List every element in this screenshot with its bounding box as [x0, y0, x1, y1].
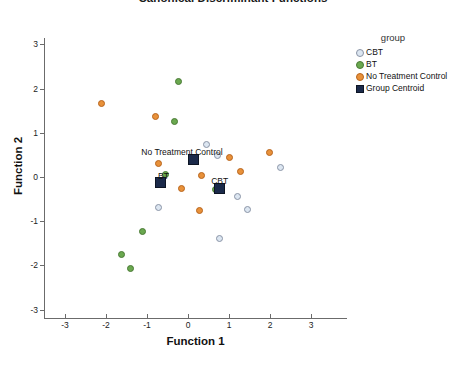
legend-item[interactable]: BT — [356, 59, 466, 70]
legend-entries: CBTBTNo Treatment ControlGroup Centroid — [356, 47, 466, 94]
x-axis-tick-label: 1 — [219, 320, 239, 330]
data-point — [127, 265, 134, 272]
data-point — [198, 172, 205, 179]
data-point — [139, 228, 146, 235]
legend-item[interactable]: No Treatment Control — [356, 71, 466, 82]
data-point — [175, 78, 182, 85]
data-point — [155, 160, 162, 167]
data-point — [178, 185, 185, 192]
centroid-label: BT — [158, 171, 169, 181]
legend-item[interactable]: Group Centroid — [356, 83, 466, 94]
data-point — [118, 251, 125, 258]
x-axis-title: Function 1 — [44, 335, 347, 347]
y-axis-tick-label: -3 — [18, 305, 38, 315]
legend-swatch-group-centroid-icon — [356, 85, 364, 93]
legend-item-label: CBT — [366, 48, 383, 57]
data-point — [277, 164, 284, 171]
discriminant-scatter-plot: Canonical Discriminant Functions -3-2-10… — [0, 0, 466, 367]
legend-item-label: No Treatment Control — [366, 72, 447, 81]
x-axis-tick-label: 3 — [301, 320, 321, 330]
x-axis-tick-label: 0 — [178, 320, 198, 330]
legend: group CBTBTNo Treatment ControlGroup Cen… — [356, 32, 466, 95]
y-axis-tick-label: -2 — [18, 260, 38, 270]
x-axis-tick-label: -1 — [137, 320, 157, 330]
y-axis-tick-label: 3 — [18, 39, 38, 49]
x-axis-tick-label: -2 — [96, 320, 116, 330]
chart-title: Canonical Discriminant Functions — [0, 0, 466, 4]
data-point — [234, 193, 241, 200]
data-point — [196, 207, 203, 214]
data-point — [98, 100, 105, 107]
data-point — [244, 206, 251, 213]
data-point — [152, 113, 159, 120]
data-point — [266, 149, 273, 156]
legend-swatch-cbt-icon — [356, 49, 364, 57]
data-point — [226, 154, 233, 161]
legend-item[interactable]: CBT — [356, 47, 466, 58]
plot-area: No Treatment ControlBTCBT — [44, 38, 346, 316]
data-point — [155, 204, 162, 211]
legend-item-label: BT — [366, 60, 377, 69]
legend-swatch-bt-icon — [356, 61, 364, 69]
data-point — [237, 168, 244, 175]
data-point — [171, 118, 178, 125]
y-axis-title: Function 2 — [12, 96, 24, 236]
legend-swatch-no-treatment-control-icon — [356, 73, 364, 81]
y-axis-tick-label: 2 — [18, 84, 38, 94]
legend-item-label: Group Centroid — [366, 84, 424, 93]
x-axis-line — [44, 318, 347, 319]
x-axis-tick-label: -3 — [55, 320, 75, 330]
centroid-label: CBT — [211, 176, 228, 186]
x-axis-tick-label: 2 — [260, 320, 280, 330]
legend-title: group — [362, 32, 424, 43]
centroid-label: No Treatment Control — [141, 147, 222, 157]
data-point — [216, 235, 223, 242]
